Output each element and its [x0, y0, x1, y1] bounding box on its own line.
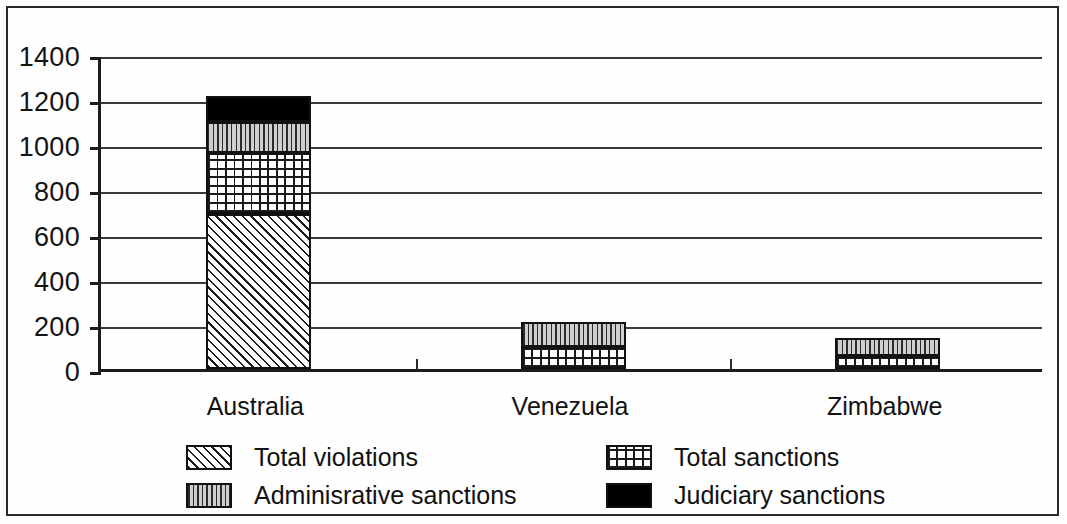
bar-segment-zimbabwe-total-sanctions	[835, 356, 940, 370]
bar-australia	[206, 54, 311, 369]
y-tick-label-800: 800	[34, 179, 80, 206]
legend-entry-judiciary-sanctions: Judiciary sanctions	[606, 483, 946, 508]
x-tick-1	[416, 359, 418, 370]
legend-swatch-solid-black	[606, 483, 652, 508]
legend-swatch-vertical-lines	[186, 483, 232, 508]
plot-area	[98, 57, 1042, 372]
chart-legend: Total violationsTotal sanctionsAdminisra…	[186, 438, 946, 514]
bar-segment-venezuela-adminisrative-sanctions	[521, 322, 626, 347]
y-tick-1200	[90, 102, 101, 105]
y-tick-600	[90, 237, 101, 240]
y-tick-label-1400: 1400	[19, 44, 80, 71]
bar-segment-australia-total-violations	[206, 214, 311, 369]
bar-segment-australia-adminisrative-sanctions	[206, 122, 311, 154]
legend-label: Total violations	[254, 445, 418, 470]
y-tick-800	[90, 192, 101, 195]
y-tick-0	[90, 372, 101, 375]
y-tick-1400	[90, 57, 101, 60]
chart-screenshot: 1400120010008006004002000 AustraliaVenez…	[0, 0, 1067, 524]
y-tick-label-200: 200	[34, 314, 80, 341]
bar-segment-zimbabwe-adminisrative-sanctions	[835, 338, 940, 356]
y-tick-label-1200: 1200	[19, 89, 80, 116]
bar-segment-venezuela-total-sanctions	[521, 347, 626, 370]
legend-label: Adminisrative sanctions	[254, 483, 517, 508]
legend-swatch-cross-hatch-grid	[606, 445, 652, 470]
y-tick-label-600: 600	[34, 224, 80, 251]
x-axis-label-venezuela: Venezuela	[413, 394, 728, 419]
bar-segment-australia-judiciary-sanctions	[206, 96, 311, 122]
bar-segment-australia-total-sanctions	[206, 153, 311, 214]
legend-label: Judiciary sanctions	[674, 483, 885, 508]
legend-label: Total sanctions	[674, 445, 839, 470]
x-tick-2	[730, 359, 732, 370]
y-tick-label-1000: 1000	[19, 134, 80, 161]
bar-venezuela	[521, 54, 626, 369]
y-tick-1000	[90, 147, 101, 150]
legend-entry-total-violations: Total violations	[186, 445, 606, 470]
y-tick-200	[90, 327, 101, 330]
legend-swatch-diagonal-hatch	[186, 445, 232, 470]
bar-zimbabwe	[835, 54, 940, 369]
y-tick-label-0: 0	[65, 359, 80, 386]
y-tick-400	[90, 282, 101, 285]
x-axis-label-zimbabwe: Zimbabwe	[727, 394, 1042, 419]
y-tick-label-400: 400	[34, 269, 80, 296]
x-axis-label-australia: Australia	[98, 394, 413, 419]
legend-entry-adminisrative-sanctions: Adminisrative sanctions	[186, 483, 606, 508]
legend-entry-total-sanctions: Total sanctions	[606, 445, 946, 470]
